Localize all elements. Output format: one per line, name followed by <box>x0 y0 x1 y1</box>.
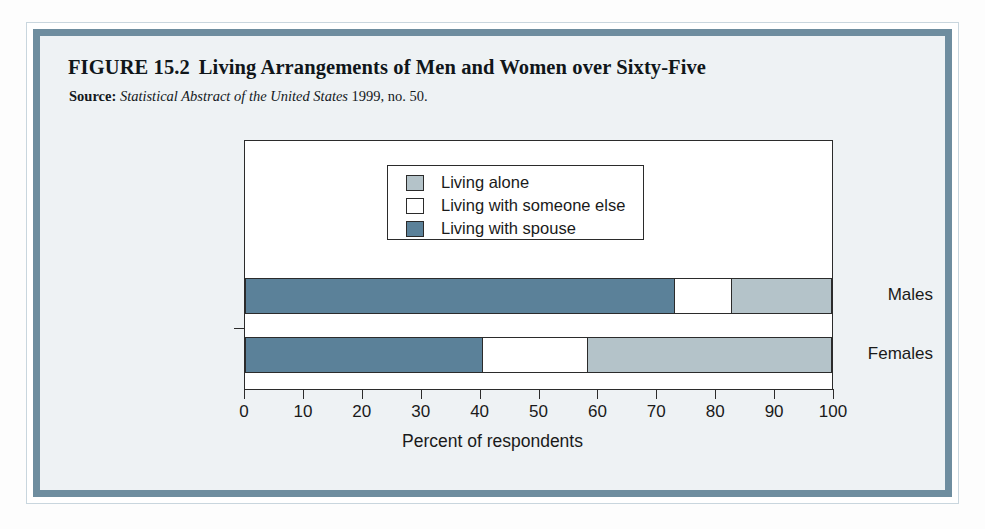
bar-segment-females-living-with-spouse <box>245 337 484 373</box>
legend-item-living-with-someone-else: Living with someone else <box>406 194 643 217</box>
x-axis-ticklabel-70: 70 <box>647 402 666 422</box>
x-axis-tick-80 <box>715 389 716 399</box>
x-axis-tick-100 <box>833 389 834 399</box>
source-label: Source: <box>69 88 116 104</box>
source-detail: 1999, no. 50. <box>348 88 428 104</box>
figure-source: Source: Statistical Abstract of the Unit… <box>69 88 428 105</box>
legend-item-living-with-spouse: Living with spouse <box>406 217 643 240</box>
y-axis-tick <box>234 328 245 329</box>
legend-label-living-with-spouse: Living with spouse <box>441 220 576 237</box>
legend-label-living-alone: Living alone <box>441 174 529 191</box>
living-with-someone-else-swatch <box>406 198 424 214</box>
x-axis-ticklabel-50: 50 <box>529 402 548 422</box>
x-axis-ticklabel-40: 40 <box>470 402 489 422</box>
living-with-spouse-swatch <box>406 221 424 237</box>
y-category-label-males: Males <box>739 285 933 305</box>
x-axis-tick-70 <box>656 389 657 399</box>
x-axis-ticklabel-20: 20 <box>352 402 371 422</box>
x-axis-tick-50 <box>539 389 540 399</box>
x-axis-ticklabel-60: 60 <box>588 402 607 422</box>
x-axis-tick-60 <box>597 389 598 399</box>
x-axis-title: Percent of respondents <box>40 431 945 452</box>
living-alone-swatch <box>406 175 424 191</box>
figure-title-text: Living Arrangements of Men and Women ove… <box>199 56 706 78</box>
x-axis-tick-20 <box>362 389 363 399</box>
bar-segment-males-living-with-spouse <box>245 278 675 314</box>
x-axis-ticklabel-100: 100 <box>819 402 847 422</box>
x-axis-tick-30 <box>421 389 422 399</box>
figure-page: FIGURE 15.2Living Arrangements of Men an… <box>0 0 985 529</box>
x-axis-ticklabel-10: 10 <box>293 402 312 422</box>
x-axis-tick-10 <box>303 389 304 399</box>
legend-item-living-alone: Living alone <box>406 171 643 194</box>
x-axis-tick-90 <box>774 389 775 399</box>
bar-segment-females-living-with-someone-else <box>482 337 588 373</box>
x-axis-tick-40 <box>480 389 481 399</box>
bar-segment-males-living-with-someone-else <box>674 278 733 314</box>
y-category-label-females: Females <box>739 344 933 364</box>
legend-label-living-with-someone-else: Living with someone else <box>441 197 625 214</box>
x-axis-ticklabel-90: 90 <box>765 402 784 422</box>
x-axis-ticklabel-30: 30 <box>411 402 430 422</box>
figure-content: FIGURE 15.2Living Arrangements of Men an… <box>40 36 945 490</box>
x-axis-tick-0 <box>244 389 245 399</box>
x-axis-ticklabel-0: 0 <box>239 402 248 422</box>
source-publication: Statistical Abstract of the United State… <box>120 88 348 104</box>
chart-legend: Living alone Living with someone else Li… <box>387 165 644 240</box>
x-axis-ticklabel-80: 80 <box>706 402 725 422</box>
figure-number: FIGURE 15.2 <box>68 56 190 78</box>
figure-title: FIGURE 15.2Living Arrangements of Men an… <box>68 56 706 79</box>
